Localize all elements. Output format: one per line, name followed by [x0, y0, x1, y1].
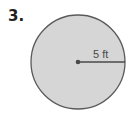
- radius-label: 5 ft: [93, 48, 108, 60]
- circle-figure: 5 ft: [0, 0, 135, 118]
- center-point: [76, 60, 81, 65]
